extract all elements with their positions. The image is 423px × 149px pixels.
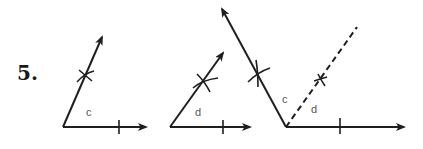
- sum-label-d: d: [311, 103, 317, 115]
- angle-c-arc-cross: [77, 70, 94, 82]
- angle-sum-figure: c d: [222, 9, 404, 134]
- sum-dashed-ray: [286, 27, 357, 127]
- sum-outer-ray: [222, 9, 286, 127]
- angle-c-side-ray: [63, 37, 102, 127]
- angle-d-figure: d: [170, 53, 250, 134]
- angle-c-label: c: [86, 106, 92, 118]
- angle-c-figure: c: [63, 37, 146, 134]
- angle-d-label: d: [195, 106, 201, 118]
- construction-diagram: 5. c d c d: [0, 0, 423, 149]
- problem-number: 5.: [17, 61, 38, 85]
- sum-label-c: c: [282, 93, 288, 105]
